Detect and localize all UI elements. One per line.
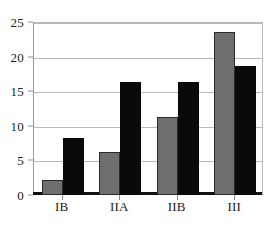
bar-series-1-IIA[interactable] xyxy=(99,152,120,195)
bar-series-2-IIA[interactable] xyxy=(120,82,141,195)
x-tick-label-III: III xyxy=(227,200,241,213)
x-tick-label-IIB: IIB xyxy=(168,200,186,213)
bar-series-2-IIB[interactable] xyxy=(178,82,199,195)
y-tick-label: 10 xyxy=(11,119,24,132)
y-tick-label: 0 xyxy=(17,189,24,202)
x-axis: IBIIAIIBIII xyxy=(33,200,263,222)
y-tick-label: 25 xyxy=(11,16,24,29)
bars-layer xyxy=(34,23,262,195)
y-tick-label: 15 xyxy=(11,85,24,98)
bar-series-1-III[interactable] xyxy=(214,32,235,195)
x-tick-label-IB: IB xyxy=(55,200,68,213)
bar-series-2-III[interactable] xyxy=(235,66,256,195)
plot-area xyxy=(33,22,263,195)
bar-group xyxy=(149,23,207,195)
y-axis: 0510152025 xyxy=(0,0,33,240)
bar-group xyxy=(207,23,265,195)
x-tick-label-IIA: IIA xyxy=(110,200,129,213)
bar-group xyxy=(92,23,150,195)
y-tick-label: 20 xyxy=(11,50,24,63)
y-tick-label: 5 xyxy=(17,154,24,167)
bar-series-2-IB[interactable] xyxy=(63,138,84,195)
bar-series-1-IIB[interactable] xyxy=(157,117,178,195)
bar-chart-figure: 0510152025 IBIIAIIBIII xyxy=(0,0,280,240)
bar-group xyxy=(34,23,92,195)
bar-series-1-IB[interactable] xyxy=(42,180,63,195)
